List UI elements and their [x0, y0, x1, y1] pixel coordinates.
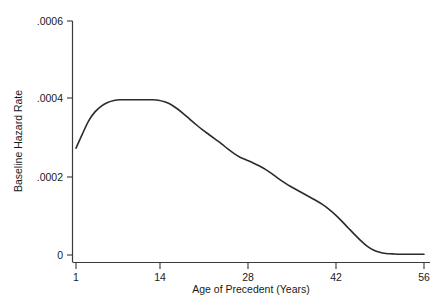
x-tick-label-1: 1	[73, 271, 79, 283]
y-tick-label-0004: .0004	[37, 92, 63, 104]
y-tick-label-0: 0	[57, 249, 63, 261]
x-tick-label-56: 56	[418, 271, 430, 283]
x-axis-title: Age of Precedent (Years)	[192, 283, 310, 295]
hazard-rate-chart-figure: .0006 .0004 .0002 0 1 14 28 42 56 Age of…	[0, 0, 439, 300]
chart-plot-area: .0006 .0004 .0002 0 1 14 28 42 56 Age of…	[0, 0, 439, 300]
y-axis-title: Baseline Hazard Rate	[12, 90, 24, 192]
x-tick-label-28: 28	[242, 271, 254, 283]
y-tick-label-0006: .0006	[37, 15, 63, 27]
x-tick-label-14: 14	[154, 271, 166, 283]
hazard-rate-line-series	[76, 100, 424, 255]
x-tick-label-42: 42	[330, 271, 342, 283]
y-tick-label-0002: .0002	[37, 171, 63, 183]
